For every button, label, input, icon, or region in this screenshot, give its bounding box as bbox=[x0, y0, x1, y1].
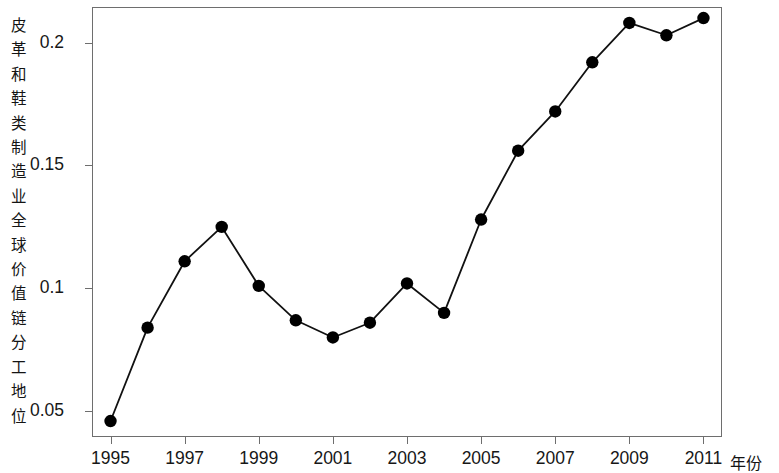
y-tick-mark bbox=[85, 411, 92, 412]
y-tick-mark bbox=[85, 288, 92, 289]
y-tick-label: 0.15 bbox=[0, 154, 78, 175]
data-point bbox=[104, 415, 116, 427]
y-axis-title: 皮革和鞋类制造业全球价值链分工地位 bbox=[4, 14, 34, 444]
data-point bbox=[660, 29, 672, 41]
line-series bbox=[92, 7, 722, 437]
series-markers bbox=[104, 12, 709, 427]
x-tick-mark bbox=[629, 437, 630, 444]
data-point bbox=[697, 12, 709, 24]
data-point bbox=[216, 221, 228, 233]
x-axis-title: 年份 bbox=[730, 450, 762, 473]
y-tick-mark bbox=[85, 165, 92, 166]
data-point bbox=[438, 307, 450, 319]
x-tick-mark bbox=[185, 437, 186, 444]
x-tick-mark bbox=[333, 437, 334, 444]
data-point bbox=[290, 314, 302, 326]
data-point bbox=[475, 213, 487, 225]
data-point bbox=[141, 321, 153, 333]
data-point bbox=[327, 331, 339, 343]
data-point bbox=[586, 56, 598, 68]
data-point bbox=[401, 277, 413, 289]
x-tick-mark bbox=[407, 437, 408, 444]
y-tick-label: 0.05 bbox=[0, 400, 78, 421]
x-tick-mark bbox=[111, 437, 112, 444]
chart-figure: 皮革和鞋类制造业全球价值链分工地位 0.050.10.150.2 1995199… bbox=[0, 0, 779, 473]
data-point bbox=[512, 145, 524, 157]
x-tick-mark bbox=[555, 437, 556, 444]
y-tick-label: 0.1 bbox=[0, 277, 78, 298]
data-point bbox=[253, 280, 265, 292]
series-polyline bbox=[111, 18, 704, 421]
x-tick-mark bbox=[703, 437, 704, 444]
y-tick-mark bbox=[85, 43, 92, 44]
x-tick-mark bbox=[481, 437, 482, 444]
data-point bbox=[364, 317, 376, 329]
data-point bbox=[178, 255, 190, 267]
data-point bbox=[549, 105, 561, 117]
data-point bbox=[623, 17, 635, 29]
y-tick-label: 0.2 bbox=[0, 32, 78, 53]
x-tick-mark bbox=[259, 437, 260, 444]
